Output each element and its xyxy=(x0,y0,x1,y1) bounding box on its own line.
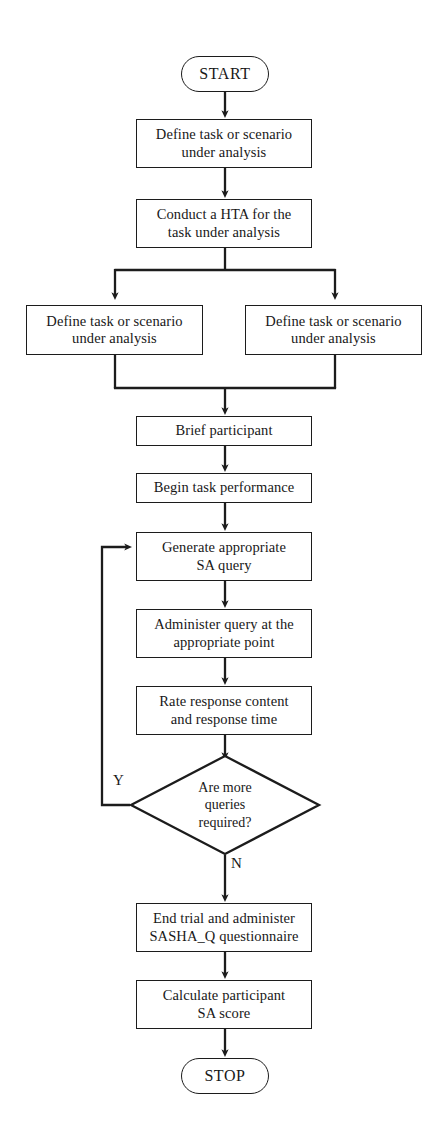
node-brief-participant[interactable]: Brief participant xyxy=(136,416,312,446)
node-calculate-sa[interactable]: Calculate participant SA score xyxy=(136,980,312,1029)
node-conduct-hta-line1: Conduct a HTA for the xyxy=(157,206,292,223)
node-brief-participant-label: Brief participant xyxy=(175,422,272,439)
node-define-task-left-line1: Define task or scenario xyxy=(46,313,182,330)
edge-decision-yes-loop xyxy=(102,547,130,805)
node-rate-response[interactable]: Rate response content and response time xyxy=(136,686,312,735)
node-decision-label: Are more queries required? xyxy=(150,773,300,837)
node-calculate-sa-line1: Calculate participant xyxy=(163,987,285,1004)
node-define-task-1-line1: Define task or scenario xyxy=(156,126,292,143)
node-end-trial-line1: End trial and administer xyxy=(149,910,298,927)
flowchart-canvas: START Define task or scenario under anal… xyxy=(0,0,443,1148)
node-define-task-left[interactable]: Define task or scenario under analysis xyxy=(26,305,203,355)
decision-no-label: N xyxy=(231,855,242,872)
decision-yes-label: Y xyxy=(113,772,124,789)
node-define-task-1[interactable]: Define task or scenario under analysis xyxy=(136,119,312,168)
node-conduct-hta[interactable]: Conduct a HTA for the task under analysi… xyxy=(136,199,312,248)
node-conduct-hta-line2: task under analysis xyxy=(157,224,292,241)
node-stop[interactable]: STOP xyxy=(181,1058,269,1094)
node-decision-line3: required? xyxy=(198,814,251,831)
node-rate-response-line1: Rate response content xyxy=(159,693,288,710)
node-define-task-right[interactable]: Define task or scenario under analysis xyxy=(245,305,422,355)
node-begin-task-label: Begin task performance xyxy=(154,479,295,496)
node-start-label: START xyxy=(199,65,250,84)
node-generate-query-line1: Generate appropriate xyxy=(162,539,286,556)
node-decision-line1: Are more xyxy=(198,779,251,796)
node-administer-query-line2: appropriate point xyxy=(154,634,294,651)
node-define-task-left-line2: under analysis xyxy=(46,330,182,347)
node-rate-response-line2: and response time xyxy=(159,711,288,728)
node-start[interactable]: START xyxy=(181,56,269,92)
node-begin-task[interactable]: Begin task performance xyxy=(136,473,312,503)
node-administer-query-line1: Administer query at the xyxy=(154,616,294,633)
node-define-task-right-line2: under analysis xyxy=(265,330,401,347)
node-generate-query-line2: SA query xyxy=(162,557,286,574)
node-stop-label: STOP xyxy=(204,1067,245,1086)
node-calculate-sa-line2: SA score xyxy=(163,1005,285,1022)
node-end-trial-line2: SASHA_Q questionnaire xyxy=(149,928,298,945)
node-define-task-right-line1: Define task or scenario xyxy=(265,313,401,330)
node-generate-query[interactable]: Generate appropriate SA query xyxy=(136,532,312,581)
node-administer-query[interactable]: Administer query at the appropriate poin… xyxy=(136,609,312,658)
node-end-trial[interactable]: End trial and administer SASHA_Q questio… xyxy=(136,903,312,952)
node-define-task-1-line2: under analysis xyxy=(156,144,292,161)
node-decision-line2: queries xyxy=(198,796,251,813)
